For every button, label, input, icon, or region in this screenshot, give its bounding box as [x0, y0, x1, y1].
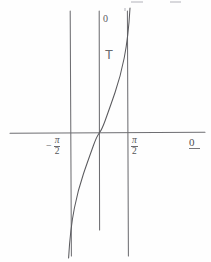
asymptote-negative-half-pi: [70, 11, 71, 256]
fraction-pi-over-2: π2: [54, 136, 61, 157]
annotation-underline: [189, 148, 200, 149]
x-axis: [10, 132, 205, 133]
fraction-denominator: 2: [131, 147, 138, 157]
asymptote-positive-half-pi: [127, 11, 128, 256]
annotation-zero-top: 0: [103, 14, 108, 24]
graph-canvas: −π2 π2 0 0 T: [0, 0, 211, 262]
annotation-t: T: [105, 48, 113, 61]
tangent-function-plot: [0, 0, 211, 262]
xtick-label-negative-half-pi: −π2: [46, 136, 60, 157]
scan-artifact-top-left: [131, 1, 143, 3]
annotation-zero-right-text: 0: [189, 136, 195, 148]
annotation-zero-right: 0: [189, 137, 200, 149]
fraction-pi-over-2: π2: [131, 136, 138, 157]
scan-artifact-top-right: [170, 1, 181, 3]
fraction-denominator: 2: [54, 147, 61, 157]
xtick-label-positive-half-pi: π2: [131, 136, 138, 157]
minus-sign: −: [46, 141, 54, 151]
scan-artifact-corner: [124, 8, 126, 11]
